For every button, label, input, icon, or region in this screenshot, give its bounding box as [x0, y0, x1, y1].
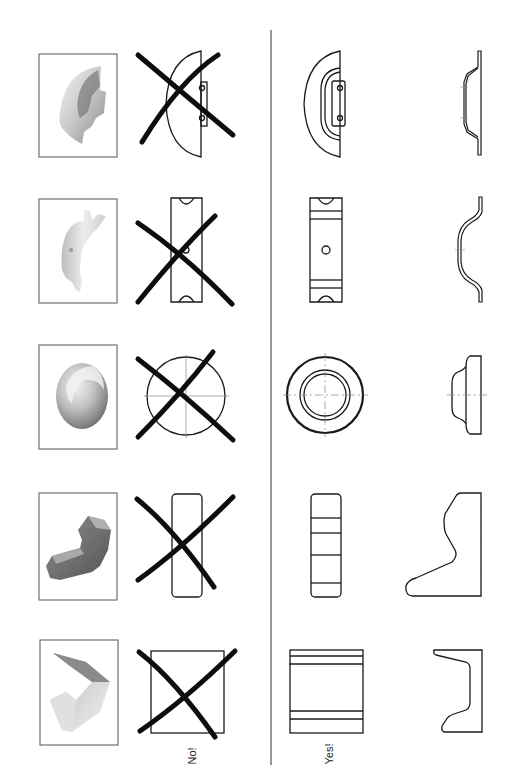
- row-2: [39, 197, 482, 304]
- row-3: [39, 345, 489, 449]
- row-4: [39, 493, 481, 600]
- bad-example-label: No!: [186, 744, 198, 768]
- good-side-view: [447, 356, 489, 434]
- good-front-view: [310, 198, 342, 302]
- good-side-view: [434, 650, 482, 732]
- good-front-view: [311, 494, 341, 597]
- bad-view-drawing: [172, 494, 202, 597]
- cross-mark: [137, 497, 233, 587]
- diagram-canvas: [0, 0, 521, 778]
- good-side-view: [460, 51, 481, 155]
- good-side-view: [406, 493, 481, 596]
- good-example-label: Yes!: [323, 740, 335, 768]
- cross-mark: [139, 651, 235, 737]
- good-front-view: [304, 51, 345, 157]
- row-1: [39, 51, 481, 157]
- good-front-view: [283, 353, 368, 437]
- cross-mark: [138, 216, 232, 304]
- good-side-view: [455, 197, 482, 302]
- good-front-view: [289, 650, 363, 733]
- row-5: [40, 640, 482, 745]
- cross-mark: [138, 55, 233, 142]
